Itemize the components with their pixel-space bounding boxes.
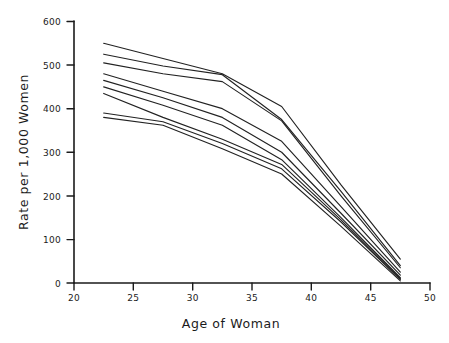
data-series-layer [104,43,401,281]
data-line-8 [104,113,401,279]
y-tick-label-600: 600 [43,17,61,27]
x-tick-label-30: 30 [187,293,199,303]
data-line-6 [104,87,401,278]
data-line-1 [104,43,401,259]
y-axis-title: Rate per 1,000 Women [16,74,31,230]
data-line-5 [104,80,401,275]
x-tick-label-20: 20 [68,293,80,303]
x-tick-label-50: 50 [424,293,436,303]
x-tick-marks [74,283,430,290]
y-tick-labels: 600 500 400 300 200 100 0 [43,17,61,289]
x-tick-label-35: 35 [246,293,258,303]
x-axis-title: Age of Woman [182,316,280,331]
x-tick-label-40: 40 [305,293,317,303]
y-tick-label-200: 200 [43,192,61,202]
data-line-7 [104,93,401,278]
chart-figure: 600 500 400 300 200 100 0 20 25 30 35 40… [0,0,449,343]
y-tick-marks [67,22,74,284]
y-tick-label-500: 500 [43,61,61,71]
y-tick-label-300: 300 [43,148,61,158]
y-tick-label-0: 0 [55,279,61,289]
x-tick-label-45: 45 [365,293,377,303]
data-line-4 [104,74,401,272]
y-tick-label-400: 400 [43,104,61,114]
line-chart-canvas: 600 500 400 300 200 100 0 20 25 30 35 40… [0,0,449,343]
y-tick-label-100: 100 [43,235,61,245]
x-tick-labels: 20 25 30 35 40 45 50 [68,293,436,303]
x-tick-label-25: 25 [127,293,139,303]
